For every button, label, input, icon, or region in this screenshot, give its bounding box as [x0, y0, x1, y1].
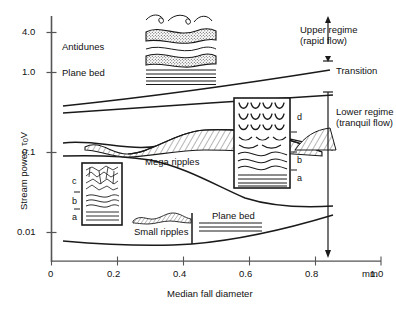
smallripple-bedform-sketch	[133, 213, 191, 224]
inset-left-label-c: c	[72, 176, 77, 186]
x-axis-label: Median fall diameter	[167, 288, 253, 299]
inset-right-label-a: a	[297, 173, 302, 183]
regime-upper: Upper regime (rapid flow)	[300, 24, 392, 46]
x-tick-0-6: 0.6	[239, 268, 252, 279]
x-axis-unit: mm	[362, 268, 378, 279]
region-label-plane-bed-lower: Plane bed	[212, 210, 255, 221]
regime-lower: Lower regime (tranquil flow)	[336, 106, 396, 128]
inset-left-label-a: a	[72, 212, 77, 222]
region-label-plane-bed-upper: Plane bed	[62, 67, 105, 78]
inset-right-label-d: d	[297, 112, 302, 122]
y-tick-1: 1.0	[22, 66, 35, 77]
y-tick-4: 4.0	[22, 26, 35, 37]
dune-sketch-right	[295, 128, 336, 150]
inset-left-label-b: b	[72, 196, 77, 206]
region-label-mega-ripples: Mega ripples	[145, 156, 199, 167]
y-axis-label-subscript: 0	[21, 138, 30, 142]
y-axis-label: Stream power, τ0V	[18, 132, 30, 210]
x-tick-0-4: 0.4	[173, 268, 186, 279]
inset-box-right	[234, 98, 297, 188]
regime-lower-line2: (tranquil flow)	[336, 117, 396, 128]
y-axis-label-tail: V	[18, 132, 29, 138]
regime-transition: Transition	[336, 65, 377, 76]
x-tick-0-8: 0.8	[305, 268, 318, 279]
y-tick-0-1: 0.1	[22, 146, 35, 157]
boundary-transition	[63, 95, 333, 113]
y-tick-0-01: 0.01	[17, 226, 36, 237]
planebed-lower-laminae	[199, 223, 262, 231]
regime-lower-line1: Lower regime	[336, 106, 396, 117]
inset-antidune-planebed	[146, 15, 216, 85]
region-label-small-ripples: Small ripples	[134, 226, 188, 237]
x-tick-0: 0	[48, 268, 53, 279]
x-tick-0-2: 0.2	[107, 268, 120, 279]
regime-upper-line2: (rapid flow)	[300, 35, 392, 46]
inset-right-label-b: b	[297, 155, 302, 165]
regime-upper-line1: Upper regime	[300, 24, 392, 35]
inset-box-left	[74, 163, 122, 225]
region-label-antidunes: Antidunes	[62, 41, 104, 52]
